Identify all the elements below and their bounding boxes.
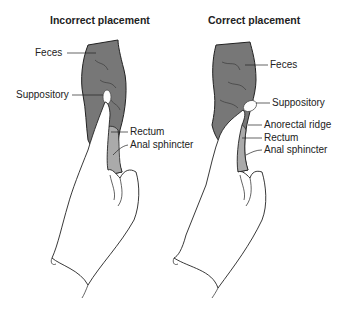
correct-anorectal-ridge-label: Anorectal ridge (264, 120, 331, 130)
incorrect-feces-label: Feces (35, 48, 62, 58)
correct-rectum-label: Rectum (264, 133, 298, 143)
correct-feces-label: Feces (270, 60, 297, 70)
incorrect-hand (51, 102, 139, 298)
correct-placement-title: Correct placement (208, 14, 300, 26)
correct-anal-sphincter-label: Anal sphincter (264, 145, 327, 155)
incorrect-anal-sphincter-label: Anal sphincter (130, 140, 193, 150)
correct-suppository-label: Suppository (272, 98, 325, 108)
incorrect-suppository-label: Suppository (16, 90, 69, 100)
incorrect-rectum-label: Rectum (130, 127, 164, 137)
incorrect-placement-title: Incorrect placement (50, 14, 150, 26)
